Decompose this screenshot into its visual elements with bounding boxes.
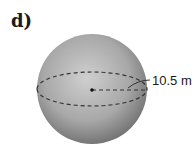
radius-label: 10.5 m: [152, 73, 192, 88]
center-point: [90, 88, 94, 92]
sphere-diagram: 10.5 m: [0, 0, 194, 155]
